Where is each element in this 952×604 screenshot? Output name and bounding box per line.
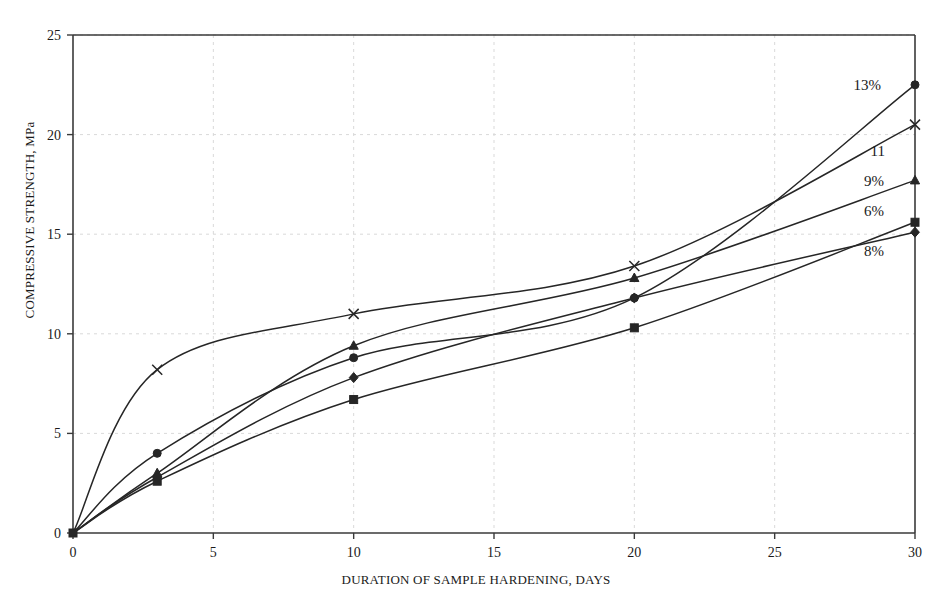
data-point-cross [629, 261, 639, 271]
series-label-8pct: 8% [864, 243, 884, 259]
x-tick-label: 5 [210, 545, 217, 560]
data-point-circle [153, 449, 161, 457]
data-point-circle [911, 81, 919, 89]
data-point-triangle [910, 175, 919, 184]
y-tick-label: 0 [54, 526, 61, 541]
data-point-square [911, 218, 919, 226]
data-point-square [630, 324, 638, 332]
axis-tick-labels: 0510152025051015202530 [47, 28, 922, 560]
series-label-11: 11 [871, 143, 885, 159]
data-point-circle [350, 354, 358, 362]
series-label-6pct: 6% [864, 203, 884, 219]
y-axis-title: COMPRESSIVE STRENGTH, MPa [22, 0, 38, 470]
series-label-9pct: 9% [864, 173, 884, 189]
y-tick-label: 20 [47, 128, 61, 143]
x-tick-label: 25 [768, 545, 782, 560]
series-line-8pct [73, 232, 915, 533]
gridlines [73, 35, 915, 533]
data-point-origin [69, 529, 77, 537]
x-axis-title: DURATION OF SAMPLE HARDENING, DAYS [0, 572, 952, 588]
data-point-square [350, 396, 358, 404]
series-lines [73, 85, 915, 533]
x-tick-label: 30 [908, 545, 922, 560]
y-tick-label: 25 [47, 28, 61, 43]
data-point-cross [152, 365, 162, 375]
data-point-diamond [911, 227, 920, 237]
y-tick-label: 15 [47, 227, 61, 242]
x-tick-label: 10 [347, 545, 361, 560]
y-tick-label: 5 [54, 426, 61, 441]
data-point-diamond [630, 293, 639, 303]
data-point-diamond [349, 373, 358, 383]
line-chart-plot: 0510152025051015202530 13%119%6%8% [0, 0, 952, 604]
axes [73, 35, 915, 533]
series-label-13pct: 13% [854, 77, 882, 93]
x-tick-label: 20 [627, 545, 641, 560]
x-tick-label: 15 [487, 545, 501, 560]
y-tick-label: 10 [47, 327, 61, 342]
series-end-labels: 13%119%6%8% [854, 77, 886, 259]
chart-container: 0510152025051015202530 13%119%6%8% DURAT… [0, 0, 952, 604]
x-tick-label: 0 [70, 545, 77, 560]
